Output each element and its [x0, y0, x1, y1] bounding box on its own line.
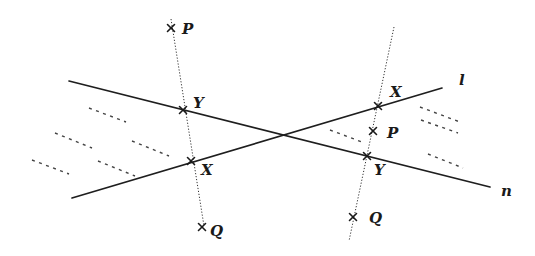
- line-label-n: n: [501, 182, 512, 200]
- line-n: [69, 81, 490, 187]
- hatch-mark: [32, 160, 69, 174]
- left-dotted-line: [171, 19, 204, 226]
- hatch-mark: [421, 120, 458, 133]
- point-label-right-Y: Y: [374, 161, 386, 179]
- point-label-right-X: X: [389, 83, 403, 101]
- geometry-diagram: nlPYXQXPYQ: [0, 0, 535, 256]
- hatch-mark: [132, 141, 169, 156]
- hatch-marks: [32, 107, 463, 176]
- hatch-mark: [98, 161, 135, 176]
- point-label-left-Q: Q: [210, 222, 223, 240]
- points: [168, 25, 382, 231]
- hatch-mark: [55, 133, 92, 148]
- point-label-left-X: X: [200, 161, 214, 179]
- point-label-left-Y: Y: [193, 94, 205, 112]
- cross-marker-icon: [168, 25, 175, 32]
- hatch-mark: [428, 154, 463, 168]
- dotted-perpendicular-lines: [171, 19, 394, 241]
- cross-marker-icon: [199, 224, 206, 231]
- point-label-left-P: P: [181, 20, 194, 38]
- labels: nlPYXQXPYQ: [181, 20, 512, 240]
- point-label-right-P: P: [386, 124, 399, 142]
- cross-marker-icon: [370, 128, 377, 135]
- line-l: [72, 88, 442, 198]
- solid-lines: [69, 81, 490, 198]
- hatch-mark: [330, 130, 362, 142]
- point-label-right-Q: Q: [369, 209, 382, 227]
- line-label-l: l: [459, 71, 465, 89]
- cross-marker-icon: [350, 214, 357, 221]
- hatch-mark: [420, 107, 460, 122]
- hatch-mark: [89, 108, 126, 122]
